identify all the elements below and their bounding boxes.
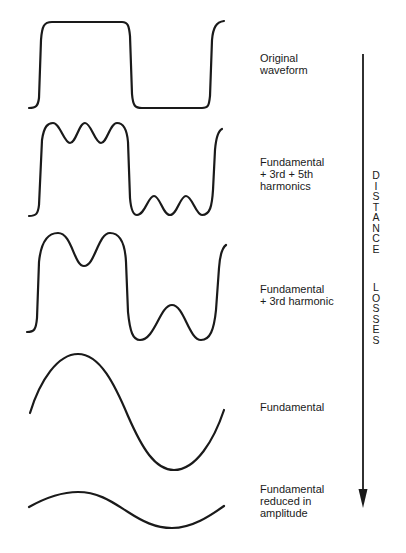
label-fundamental: Fundamental xyxy=(260,401,324,413)
label-fundamental-reduced: Fundamental reduced in amplitude xyxy=(260,483,324,519)
waveform-fund-3rd-curve xyxy=(27,233,226,340)
waveform-fundamental xyxy=(30,354,224,470)
label-fund-3rd-5th-line-1: Fundamental xyxy=(260,156,324,168)
waveform-original-curve xyxy=(29,21,224,108)
arrow-down-icon xyxy=(359,489,368,508)
waveform-fund-3rd-5th xyxy=(29,123,222,216)
label-fundamental-reduced-line-2: reduced in xyxy=(260,495,311,507)
waveform-original xyxy=(29,21,224,108)
label-fund-3rd-5th-line-2: + 3rd + 5th xyxy=(260,168,313,180)
label-fund-3rd: Fundamental + 3rd harmonic xyxy=(260,283,334,307)
waveform-fundamental-reduced xyxy=(29,492,224,528)
vletter-s4: S xyxy=(372,334,379,346)
label-fund-3rd-5th-line-3: harmonics xyxy=(260,180,311,192)
label-fund-3rd-line-1: Fundamental xyxy=(260,283,324,295)
label-original-line-2: waveform xyxy=(259,64,308,76)
label-original: Original waveform xyxy=(259,52,308,76)
waveform-fundamental-curve xyxy=(30,354,224,470)
label-original-line-1: Original xyxy=(260,52,298,64)
distance-arrow xyxy=(359,54,368,508)
waveform-fundamental-reduced-curve xyxy=(29,492,224,528)
waveform-distance-loss-diagram: Original waveform Fundamental + 3rd + 5t… xyxy=(0,0,406,553)
label-fund-3rd-5th: Fundamental + 3rd + 5th harmonics xyxy=(260,156,324,192)
label-fundamental-line-1: Fundamental xyxy=(260,401,324,413)
waveform-fund-3rd-5th-curve xyxy=(29,123,222,216)
vletter-e: E xyxy=(372,243,379,255)
label-fundamental-reduced-line-3: amplitude xyxy=(260,507,308,519)
distance-losses-label: D I S T A N C E L O S S E S xyxy=(372,169,380,346)
waveform-fund-3rd xyxy=(27,233,226,340)
label-fundamental-reduced-line-1: Fundamental xyxy=(260,483,324,495)
label-fund-3rd-line-2: + 3rd harmonic xyxy=(260,295,334,307)
